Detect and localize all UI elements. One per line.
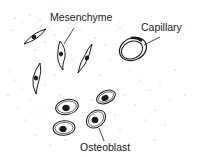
osteoblast-cell-3 xyxy=(83,106,109,132)
label-mesenchyme: Mesenchyme xyxy=(50,12,112,23)
mesenchyme-leader-line xyxy=(64,28,74,44)
capillary-vessel xyxy=(116,33,151,65)
osteoblast-cell-4 xyxy=(94,87,117,106)
bone-formation-diagram: Mesenchyme Capillary Osteoblast xyxy=(0,0,199,157)
label-osteoblast: Osteoblast xyxy=(80,142,130,153)
osteoblast-cell-2 xyxy=(52,120,75,136)
mesenchyme-cell-2 xyxy=(58,41,66,70)
capillary-leader-line xyxy=(144,37,160,45)
mesenchyme-cell-1 xyxy=(24,29,46,44)
osteoblast-cell-1 xyxy=(54,97,80,116)
mesenchyme-cell-4 xyxy=(33,63,41,94)
mesenchyme-cell-3 xyxy=(78,44,92,73)
osteoblast-leader-line xyxy=(99,128,104,141)
label-capillary: Capillary xyxy=(141,22,182,33)
